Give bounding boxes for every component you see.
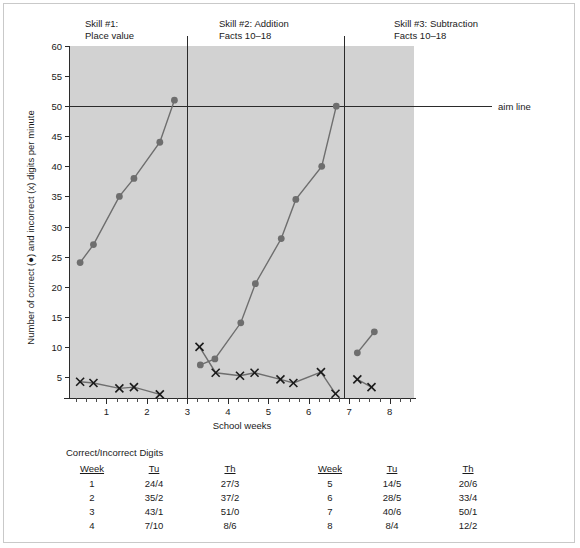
y-axis-label: Number of correct (●) and incorrect (x) … [25,78,36,378]
table-row: 88/412/2 [304,518,508,532]
table-row: 740/650/1 [304,504,508,518]
figure-frame: Skill #1: Place value Skill #2: Addition… [3,3,575,543]
incorrect-data-point [196,343,204,351]
cell-week: 2 [66,490,118,504]
col-header-tu: Tu [356,463,428,476]
x-minor-tick-mark [278,398,279,402]
y-tick-label: 60 [51,41,62,52]
cell-week: 1 [66,476,118,490]
table-row: 235/237/2 [66,490,270,504]
x-tick-mark [106,398,107,404]
correct-series-line [80,100,174,262]
x-minor-tick-mark [157,398,158,402]
x-minor-tick-mark [410,398,411,402]
col-header-week: Week [304,463,356,476]
data-series [70,46,414,398]
cell-week: 5 [304,476,356,490]
x-minor-tick-mark [339,398,340,402]
x-minor-tick-mark [208,398,209,402]
x-tick-mark [268,398,269,404]
x-tick-mark [309,398,310,404]
correct-data-point [371,328,378,335]
x-tick-mark [228,398,229,404]
x-minor-tick-mark [86,398,87,402]
y-tick-label: 35 [51,191,62,202]
phase-header-skill3: Skill #3: Subtraction Facts 10–18 [394,18,478,41]
cell-tuesday: 28/5 [356,490,428,504]
cell-thursday: 12/2 [428,518,508,532]
y-tick-label: 45 [51,131,62,142]
incorrect-data-point [368,383,376,391]
cell-week: 4 [66,518,118,532]
correct-data-point [156,139,163,146]
correct-data-point [252,280,259,287]
table-row: 514/520/6 [304,476,508,490]
y-tick-label: 15 [51,311,62,322]
x-minor-tick-mark [380,398,381,402]
table-row: 343/151/0 [66,504,270,518]
correct-data-point [354,349,361,356]
x-minor-tick-mark [319,398,320,402]
incorrect-data-point [331,390,339,398]
cell-tuesday: 14/5 [356,476,428,490]
data-table-weeks-1-4: Week Tu Th 124/427/3235/237/2343/151/047… [66,463,270,532]
x-tick-mark [187,398,188,404]
x-tick-label: 2 [144,406,149,417]
table-header-row: Week Tu Th [66,463,270,476]
table-row: 47/108/6 [66,518,270,532]
x-tick-label: 8 [387,406,392,417]
x-minor-tick-mark [96,398,97,402]
x-tick-label: 4 [225,406,230,417]
cell-thursday: 20/6 [428,476,508,490]
col-header-th: Th [190,463,270,476]
cell-week: 6 [304,490,356,504]
x-minor-tick-mark [369,398,370,402]
x-minor-tick-mark [400,398,401,402]
cell-week: 3 [66,504,118,518]
x-minor-tick-mark [127,398,128,402]
y-tick-label: 10 [51,341,62,352]
correct-data-point [116,193,123,200]
col-header-th: Th [428,463,508,476]
x-minor-tick-mark [238,398,239,402]
x-minor-tick-mark [167,398,168,402]
col-header-tu: Tu [118,463,190,476]
x-tick-label: 7 [347,406,352,417]
x-tick-label: 3 [185,406,190,417]
correct-data-point [171,97,178,104]
data-table-weeks-5-8: Week Tu Th 514/520/6628/533/4740/650/188… [304,463,508,532]
correct-data-point [131,175,138,182]
x-minor-tick-mark [258,398,259,402]
phase-header-skill2: Skill #2: Addition Facts 10–18 [219,18,289,41]
cell-tuesday: 24/4 [118,476,190,490]
x-tick-label: 6 [306,406,311,417]
aim-line-label: aim line [498,101,531,112]
x-tick-label: 1 [104,406,109,417]
y-tick-label: 30 [51,221,62,232]
x-minor-tick-mark [359,398,360,402]
incorrect-series-line [200,347,336,394]
x-axis-label: School weeks [70,420,414,431]
correct-data-point [197,362,204,369]
cell-week: 7 [304,504,356,518]
table-row: 628/533/4 [304,490,508,504]
y-tick-label: 5 [57,371,62,382]
correct-data-point [237,319,244,326]
cell-tuesday: 43/1 [118,504,190,518]
col-header-week: Week [66,463,118,476]
correct-data-point [278,235,285,242]
correct-data-point [90,241,97,248]
y-tick-label: 40 [51,161,62,172]
cell-thursday: 50/1 [428,504,508,518]
cell-thursday: 37/2 [190,490,270,504]
incorrect-data-point [289,379,297,387]
y-tick-label: 20 [51,281,62,292]
correct-series-line [200,106,336,365]
cell-thursday: 51/0 [190,504,270,518]
incorrect-data-point [156,390,164,398]
correct-data-point [333,103,340,110]
x-minor-tick-mark [289,398,290,402]
incorrect-data-point [353,375,361,383]
correct-series-line [357,332,374,353]
x-minor-tick-mark [329,398,330,402]
